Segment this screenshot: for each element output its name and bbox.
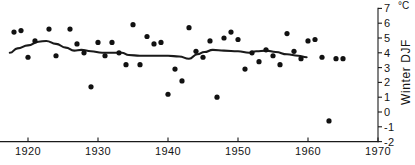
- data-point: [319, 55, 324, 60]
- data-point: [186, 25, 191, 30]
- y-axis: -2-101234567: [378, 2, 395, 147]
- data-point: [326, 118, 331, 123]
- y-axis-title: Winter DJF: [399, 39, 413, 105]
- y-tick-label: 1: [384, 91, 391, 103]
- data-point: [25, 55, 30, 60]
- chart-container: 192019301940195019601970 -2-101234567 °C…: [0, 0, 415, 165]
- data-point: [116, 50, 121, 55]
- data-point: [193, 49, 198, 54]
- data-point: [109, 40, 114, 45]
- data-point: [130, 22, 135, 27]
- data-point: [144, 34, 149, 39]
- data-point: [67, 27, 72, 32]
- unit-label: °C: [398, 0, 409, 11]
- data-point: [270, 53, 275, 58]
- y-tick-label: 0: [384, 106, 391, 118]
- data-point: [172, 66, 177, 71]
- y-tick-label: -2: [384, 136, 395, 148]
- data-point: [221, 35, 226, 40]
- y-tick-label: 2: [384, 76, 391, 88]
- data-point: [179, 78, 184, 83]
- data-point: [291, 49, 296, 54]
- data-point: [158, 40, 163, 45]
- data-point: [200, 55, 205, 60]
- data-point: [46, 27, 51, 32]
- data-point: [312, 37, 317, 42]
- data-point: [18, 28, 23, 33]
- data-point: [256, 59, 261, 64]
- data-point: [242, 66, 247, 71]
- data-point: [137, 62, 142, 67]
- y-tick-label: 6: [384, 17, 391, 29]
- data-point: [88, 84, 93, 89]
- y-tick-label: 5: [384, 32, 391, 44]
- data-point: [284, 31, 289, 36]
- data-point: [151, 41, 156, 46]
- x-tick-label: 1950: [225, 145, 251, 157]
- x-axis: 192019301940195019601970: [0, 138, 391, 157]
- data-point: [277, 62, 282, 67]
- data-point: [74, 41, 79, 46]
- data-point: [340, 56, 345, 61]
- data-point: [298, 56, 303, 61]
- data-point: [95, 40, 100, 45]
- x-tick-label: 1930: [85, 145, 111, 157]
- y-tick-label: 3: [384, 62, 391, 74]
- data-point: [123, 62, 128, 67]
- data-point: [165, 92, 170, 97]
- data-point: [305, 38, 310, 43]
- data-points: [11, 22, 345, 123]
- x-tick-label: 1960: [295, 145, 321, 157]
- data-point: [32, 38, 37, 43]
- data-point: [263, 47, 268, 52]
- y-tick-label: 4: [384, 47, 391, 59]
- data-point: [207, 38, 212, 43]
- data-point: [214, 95, 219, 100]
- data-point: [249, 50, 254, 55]
- data-point: [235, 37, 240, 42]
- x-tick-label: 1940: [155, 145, 181, 157]
- data-point: [228, 29, 233, 34]
- data-point: [11, 29, 16, 34]
- data-point: [81, 50, 86, 55]
- data-point: [102, 53, 107, 58]
- data-point: [53, 53, 58, 58]
- x-tick-label: 1920: [15, 145, 41, 157]
- data-point: [333, 56, 338, 61]
- y-tick-label: -1: [384, 121, 395, 133]
- winter-djf-scatter-chart: 192019301940195019601970 -2-101234567 °C…: [0, 0, 415, 165]
- y-tick-label: 7: [384, 2, 391, 14]
